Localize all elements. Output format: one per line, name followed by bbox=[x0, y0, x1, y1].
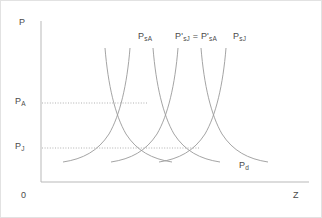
demand-curve-left bbox=[63, 48, 130, 162]
origin-label: 0 bbox=[21, 191, 26, 200]
y-tick-label-pa: PA bbox=[15, 97, 26, 106]
guide-lines bbox=[42, 103, 199, 148]
supply-curves bbox=[105, 48, 268, 162]
y-tick-pa-sub: A bbox=[21, 100, 26, 107]
chart-figure: P Z 0 PA PJ PsA P'sJ = P'sA PsJ Pd bbox=[0, 0, 322, 218]
demand-curves bbox=[63, 48, 226, 162]
x-axis-label: Z bbox=[293, 191, 299, 200]
curve-label-prime-supply: P'sJ = P'sA bbox=[175, 32, 217, 41]
supply-curve-psJ bbox=[201, 48, 268, 162]
curve-label-demand: Pd bbox=[239, 161, 249, 170]
curve-label-psA: PsA bbox=[138, 32, 152, 41]
y-tick-pj-sub: J bbox=[21, 145, 24, 152]
chart-plot-area bbox=[1, 1, 322, 218]
y-axis-label: P bbox=[19, 18, 25, 27]
y-tick-label-pj: PJ bbox=[15, 142, 25, 151]
curve-label-psJ: PsJ bbox=[233, 32, 246, 41]
